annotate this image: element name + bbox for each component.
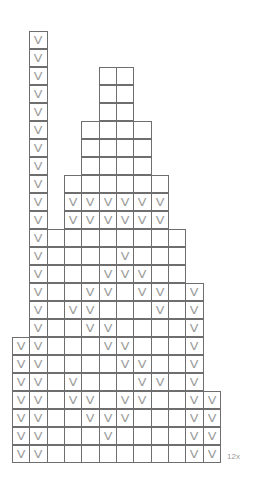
stitch-cell-marked <box>29 31 47 49</box>
stitch-cell <box>116 445 134 463</box>
stitch-cell <box>99 103 117 121</box>
stitch-cell-marked <box>81 409 99 427</box>
stitch-cell-marked <box>29 67 47 85</box>
stitch-cell-marked <box>185 373 203 391</box>
stitch-cell <box>81 265 99 283</box>
stitch-cell <box>47 355 65 373</box>
stitch-cell-marked <box>116 265 134 283</box>
stitch-cell <box>47 409 65 427</box>
stitch-cell-marked <box>64 193 82 211</box>
stitch-cell-marked <box>185 355 203 373</box>
stitch-cell <box>151 409 169 427</box>
stitch-cell-marked <box>29 247 47 265</box>
stitch-cell <box>64 319 82 337</box>
stitch-cell <box>168 337 186 355</box>
stitch-cell <box>81 175 99 193</box>
stitch-cell-marked <box>185 301 203 319</box>
stitch-cell <box>168 427 186 445</box>
stitch-cell-marked <box>133 211 151 229</box>
stitch-cell-marked <box>133 193 151 211</box>
stitch-cell <box>64 229 82 247</box>
stitch-cell-marked <box>29 49 47 67</box>
stitch-cell <box>116 67 134 85</box>
stitch-cell <box>151 229 169 247</box>
stitch-cell <box>133 319 151 337</box>
stitch-cell <box>47 247 65 265</box>
stitch-cell-marked <box>185 445 203 463</box>
stitch-cell-marked <box>81 193 99 211</box>
stitch-cell <box>47 373 65 391</box>
stitch-cell <box>116 229 134 247</box>
stitch-cell-marked <box>185 409 203 427</box>
stitch-cell-marked <box>29 175 47 193</box>
stitch-cell-marked <box>29 445 47 463</box>
stitch-cell-marked <box>151 283 169 301</box>
stitch-cell <box>133 427 151 445</box>
stitch-cell <box>99 157 117 175</box>
stitch-cell <box>47 391 65 409</box>
stitch-cell <box>133 337 151 355</box>
stitch-cell <box>99 229 117 247</box>
stitch-cell-marked <box>29 85 47 103</box>
stitch-cell <box>64 283 82 301</box>
stitch-cell <box>64 355 82 373</box>
stitch-cell-marked <box>29 139 47 157</box>
stitch-cell <box>151 391 169 409</box>
stitch-cell <box>81 355 99 373</box>
stitch-cell <box>81 337 99 355</box>
stitch-cell-marked <box>99 337 117 355</box>
stitch-cell-marked <box>133 373 151 391</box>
stitch-cell-marked <box>81 283 99 301</box>
stitch-cell <box>47 445 65 463</box>
stitch-cell <box>116 427 134 445</box>
stitch-cell <box>151 265 169 283</box>
stitch-cell-marked <box>116 391 134 409</box>
stitch-cell <box>133 301 151 319</box>
stitch-cell-marked <box>64 301 82 319</box>
stitch-cell <box>81 229 99 247</box>
stitch-cell <box>168 265 186 283</box>
stitch-cell-marked <box>64 373 82 391</box>
stitch-cell-marked <box>12 391 30 409</box>
stitch-cell <box>47 229 65 247</box>
stitch-cell <box>116 283 134 301</box>
stitch-cell-marked <box>151 193 169 211</box>
stitch-cell <box>47 427 65 445</box>
stitch-cell <box>133 175 151 193</box>
stitch-cell <box>151 247 169 265</box>
stitch-cell-marked <box>99 409 117 427</box>
stitch-cell-marked <box>29 409 47 427</box>
stitch-cell-marked <box>64 211 82 229</box>
stitch-cell-marked <box>185 337 203 355</box>
stitch-cell-marked <box>29 355 47 373</box>
stitch-cell-marked <box>133 283 151 301</box>
stitch-cell <box>99 355 117 373</box>
stitch-cell <box>151 445 169 463</box>
stitch-cell-marked <box>116 355 134 373</box>
stitch-cell <box>99 175 117 193</box>
stitch-cell <box>133 229 151 247</box>
repeat-count-label: 12x <box>227 452 240 461</box>
stitch-cell <box>99 247 117 265</box>
stitch-cell <box>116 121 134 139</box>
stitch-cell <box>64 427 82 445</box>
stitch-cell-marked <box>203 445 221 463</box>
stitch-cell <box>116 139 134 157</box>
stitch-cell-marked <box>133 391 151 409</box>
stitch-cell <box>99 139 117 157</box>
stitch-cell <box>99 445 117 463</box>
stitch-cell <box>81 427 99 445</box>
stitch-cell <box>99 301 117 319</box>
stitch-cell-marked <box>185 391 203 409</box>
stitch-cell <box>81 157 99 175</box>
stitch-cell-marked <box>151 301 169 319</box>
stitch-cell-marked <box>185 319 203 337</box>
stitch-cell <box>81 373 99 391</box>
stitch-cell-marked <box>116 193 134 211</box>
stitch-cell-marked <box>29 265 47 283</box>
stitch-cell-marked <box>133 355 151 373</box>
stitch-cell-marked <box>151 211 169 229</box>
stitch-cell <box>151 337 169 355</box>
stitch-cell <box>133 409 151 427</box>
stitch-cell <box>168 229 186 247</box>
